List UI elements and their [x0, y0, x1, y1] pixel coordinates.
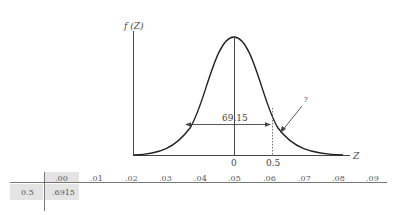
col-header: .07 [298, 174, 311, 183]
bell-curve [134, 37, 343, 155]
arrow-left-icon [185, 122, 191, 126]
col-header: .08 [332, 174, 345, 183]
row-header-z: 0.5 [21, 188, 34, 197]
col-header: .02 [125, 174, 138, 183]
col-header: .09 [366, 174, 379, 183]
col-header: .04 [194, 174, 207, 183]
col-header: .03 [159, 174, 172, 183]
arrow-right-icon [265, 122, 271, 126]
x-tick-0-5: 0.5 [266, 158, 281, 168]
x-axis-label: Z [352, 151, 360, 161]
col-header: .05 [228, 174, 241, 183]
table-header-row: .00 .01 .02 .03 .04 .05 .06 .07 .08 .09 [55, 174, 379, 183]
table-cell: .6915 [52, 188, 75, 197]
pointer-arrow [282, 106, 302, 131]
col-header: .00 [55, 174, 68, 183]
x-tick-0: 0 [231, 158, 237, 168]
y-axis-label: f (Z) [123, 21, 144, 31]
col-header: .06 [263, 174, 276, 183]
col-header: .01 [90, 174, 103, 183]
unknown-label: ? [304, 96, 308, 104]
area-label: 69.15 [222, 113, 248, 123]
normal-distribution-diagram: f (Z) Z 69.15 ? 0 0.5 .00 .01 .02 .03 .0… [0, 0, 397, 215]
